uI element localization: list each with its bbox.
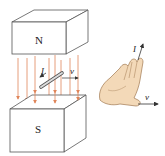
rod-velocity-label: v [70, 66, 74, 76]
hand-velocity-label: v [145, 92, 149, 102]
hand-current-label: I [132, 44, 137, 54]
south-magnet: S [10, 95, 86, 152]
right-hand-rule-diagram: N S I v I [0, 0, 165, 156]
right-hand-icon: I v [99, 44, 158, 106]
south-pole-label: S [35, 123, 41, 135]
conductor-rod: I v [40, 66, 78, 87]
hand-current-arrow [138, 44, 143, 60]
north-pole-label: N [35, 34, 43, 46]
north-magnet: N [12, 10, 88, 54]
